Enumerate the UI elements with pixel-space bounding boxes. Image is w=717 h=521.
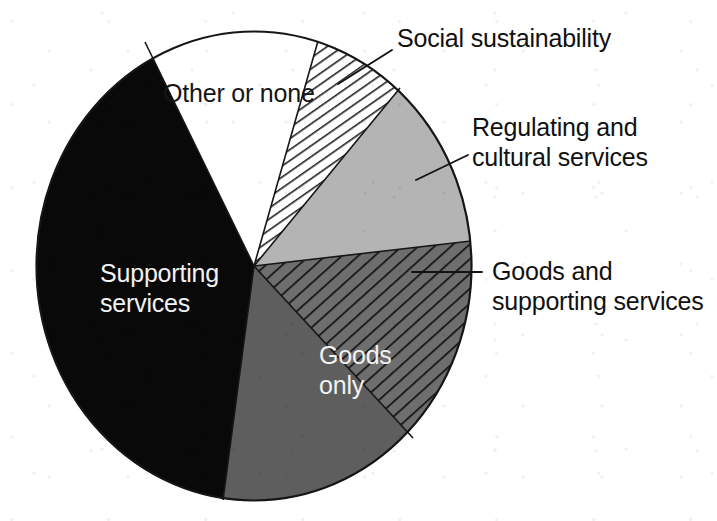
pie-label-goods-only: Goods only (319, 341, 392, 400)
pie-label-regulating-and-cultural-services: Regulating and cultural services (472, 113, 648, 172)
pie-label-social-sustainability: Social sustainability (397, 24, 611, 54)
pie-label-supporting-line-2: services (100, 289, 219, 319)
pie-label-goods-supporting-line-1: Goods and (492, 257, 704, 287)
pie-label-goods-supporting-line-2: supporting services (492, 287, 704, 317)
pie-label-regulating-line-1: Regulating and (472, 113, 648, 143)
pie-label-supporting-services: Supporting services (100, 259, 219, 318)
pie-label-regulating-line-2: cultural services (472, 143, 648, 173)
pie-label-goods-and-supporting-services: Goods and supporting services (492, 257, 704, 316)
pie-label-goods-only-line-1: Goods (319, 341, 392, 371)
pie-label-other-or-none: Other or none (163, 79, 315, 109)
pie-label-supporting-line-1: Supporting (100, 259, 219, 289)
pie-chart-figure: Social sustainability Regulating and cul… (0, 0, 717, 521)
pie-label-goods-only-line-2: only (319, 371, 392, 401)
